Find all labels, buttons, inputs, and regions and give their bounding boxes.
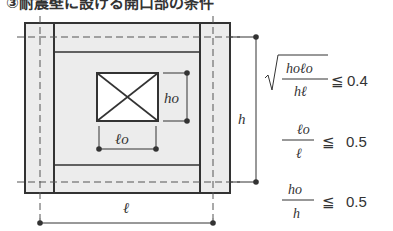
condition-1-numerator: hoℓo (286, 61, 313, 76)
condition-width-ratio: ℓo ℓ ≦ 0.5 (282, 122, 367, 161)
ho-label: ho (164, 90, 180, 106)
condition-area-ratio: hoℓo hℓ ≦ 0.4 (265, 55, 368, 99)
opening (97, 73, 158, 121)
h-dimension (230, 34, 259, 185)
h-label: h (238, 111, 246, 127)
condition-2-numerator: ℓo (297, 122, 310, 137)
condition-2-operator: ≦ (322, 133, 335, 150)
condition-height-ratio: ho h ≦ 0.5 (282, 182, 367, 221)
condition-2-denominator: ℓ (296, 146, 302, 161)
seismic-wall-opening-diagram: ho ℓo h ℓ hoℓo hℓ ≦ 0.4 ℓo ℓ (0, 0, 393, 231)
lo-label: ℓo (115, 131, 129, 147)
condition-1-denominator: hℓ (294, 84, 307, 99)
condition-3-numerator: ho (288, 182, 302, 197)
condition-3-operator: ≦ (322, 193, 335, 210)
condition-1-value: 0.4 (347, 72, 368, 89)
condition-2-value: 0.5 (346, 133, 367, 150)
condition-3-denominator: h (293, 206, 300, 221)
condition-1-operator: ≦ (331, 72, 344, 89)
condition-3-value: 0.5 (346, 193, 367, 210)
l-dimension (37, 218, 216, 226)
l-label: ℓ (123, 200, 129, 216)
